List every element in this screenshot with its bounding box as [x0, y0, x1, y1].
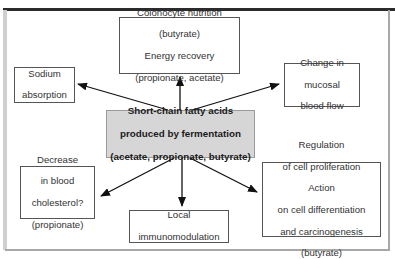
box-text-line: (propionate, acetate)	[135, 73, 224, 84]
box-text-line: mucosal	[300, 80, 344, 91]
box-sodium-absorption: Sodium absorption	[14, 67, 75, 103]
box-text-line: Energy recovery	[135, 51, 224, 62]
box-text-line: immunomodulation	[138, 232, 219, 243]
box-colonocyte-nutrition: Colonocyte nutrition (butyrate) Energy r…	[119, 17, 240, 74]
box-text-line: and carcinogenesis	[278, 227, 366, 238]
box-text-line: Local	[138, 210, 219, 221]
box-text-line: cholesterol?	[32, 198, 84, 209]
box-blood-cholesterol: Decrease in blood cholesterol? (propiona…	[20, 166, 95, 219]
box-text-line: Action	[278, 183, 366, 194]
frame-right-rule	[388, 10, 390, 251]
box-text-line: (propionate)	[32, 220, 84, 231]
box-cell-proliferation: Regulation of cell proliferation Action …	[262, 162, 381, 237]
box-text-line: on cell differentiation	[278, 205, 366, 216]
central-text-line: produced by fermentation	[110, 128, 250, 140]
box-text-line: of cell proliferation	[278, 162, 366, 173]
box-text-line: Decrease	[32, 155, 84, 166]
box-text-line: (butyrate)	[135, 29, 224, 40]
box-text-line: absorption	[22, 90, 67, 101]
box-text-line: in blood	[32, 176, 84, 187]
box-short-chain-fatty-acids: Short-chain fatty acids produced by ferm…	[106, 110, 255, 158]
box-mucosal-blood-flow: Change in mucosal blood flow	[284, 63, 360, 107]
box-text-line: blood flow	[300, 101, 344, 112]
box-text-line: Regulation	[278, 140, 366, 151]
box-text-line: (butyrate)	[278, 248, 366, 259]
box-text-line: Change in	[300, 58, 344, 69]
central-text-line: (acetate, propionate, butyrate)	[110, 151, 250, 163]
box-text-line: Sodium	[22, 69, 67, 80]
central-text-line: Short-chain fatty acids	[110, 105, 250, 117]
box-text-line: Colonocyte nutrition	[135, 8, 224, 19]
frame-left-rule	[3, 10, 7, 250]
box-local-immunomodulation: Local immunomodulation	[129, 210, 229, 243]
